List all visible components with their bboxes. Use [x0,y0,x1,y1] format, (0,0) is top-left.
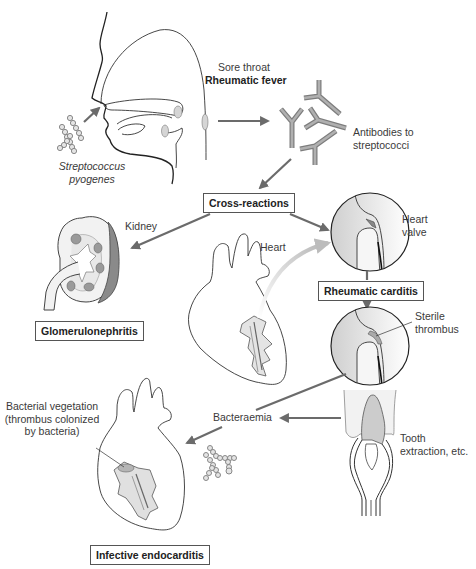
kidney-label: Kidney [125,220,157,233]
sterile-thrombus-magnified-circle [331,307,409,389]
tooth-extraction-label-line2: extraction, etc. [400,445,468,458]
sterile-thrombus-label-line1: Sterile [415,310,459,323]
antibodies-label: Antibodies to streptococci [353,126,414,151]
heart-valve-label-line2: valve [402,226,428,239]
arrow-bacteraemia-to-endocarditis [187,427,222,443]
antibodies-label-line2: streptococci [353,139,414,152]
heart-illustration-rheumatic [188,234,286,384]
streptococcus-chains-icon [57,115,83,153]
kidney-illustration [44,217,119,310]
heart-valve-label-line1: Heart [402,213,428,226]
heart-label: Heart [260,241,286,254]
organism-label-line2: pyogenes [52,173,132,186]
head-interior-illustration [101,30,206,168]
sterile-thrombus-label-line2: thrombus [415,323,459,336]
arrow-antibodies-to-cross-reactions [260,159,291,188]
tooth-extraction-label-line1: Tooth [400,432,468,445]
bacterial-vegetation-label-line2: (thrombus colonized [0,413,104,426]
throat-tissue-texture [162,106,209,137]
vegetation-valve-detail [114,462,158,520]
arrow-cross-reactions-to-heart-valve [290,214,328,230]
infective-endocarditis-box: Infective endocarditis [90,545,210,565]
tooth-extraction-illustration [344,390,396,516]
bacterial-vegetation-label: Bacterial vegetation (thrombus colonized… [0,400,104,438]
heart-valve-magnified-circle [331,193,409,275]
organism-label: Streptococcus pyogenes [52,160,132,185]
vegetation-pointer-line [96,448,124,467]
rheumatic-carditis-box: Rheumatic carditis [318,281,424,301]
antibodies-label-line1: Antibodies to [353,126,414,139]
sore-throat-label: Sore throat [218,61,270,74]
bacteria-cluster-icon [204,446,237,481]
cross-reactions-box: Cross-reactions [203,193,295,213]
tooth-extraction-label: Tooth extraction, etc. [400,432,468,457]
bacterial-vegetation-label-line3: by bacteria) [0,425,104,438]
glomerulonephritis-box: Glomerulonephritis [35,321,144,341]
rheumatic-fever-label: Rheumatic fever [205,74,287,87]
organism-label-line1: Streptococcus [52,160,132,173]
head-profile-illustration [92,12,173,184]
bacterial-vegetation-label-line1: Bacterial vegetation [0,400,104,413]
heart-valve-label: Heart valve [402,213,428,238]
sterile-thrombus-label: Sterile thrombus [415,310,459,335]
arrow-thrombus-to-bacteraemia [256,374,346,410]
bacteraemia-label: Bacteraemia [213,411,272,424]
heart-valve-detail-rheumatic [240,316,272,376]
arrow-bacteria-to-nose [84,108,99,122]
